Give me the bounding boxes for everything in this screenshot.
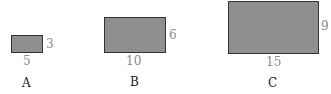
rectangle-a-width: 5	[23, 55, 31, 67]
rectangle-a-label: A	[22, 77, 31, 89]
rectangle-b	[104, 17, 166, 53]
rectangle-c-label: C	[268, 77, 277, 89]
rectangle-c	[228, 1, 319, 54]
rectangle-c-height: 9	[321, 20, 329, 32]
rectangle-b-width: 10	[126, 55, 141, 67]
rectangle-c-width: 15	[266, 56, 281, 68]
rectangle-b-label: B	[130, 76, 139, 88]
rectangle-a	[11, 35, 43, 53]
rectangle-a-height: 3	[46, 38, 54, 50]
rectangle-b-height: 6	[169, 29, 177, 41]
